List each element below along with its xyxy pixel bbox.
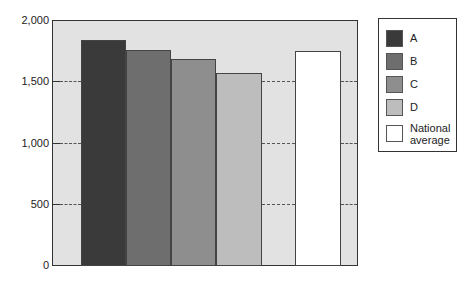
- gridline-1500: [262, 81, 295, 82]
- gridline-1500: [60, 81, 81, 82]
- legend-item-a: A: [386, 30, 456, 47]
- y-tick-1500: [52, 81, 60, 82]
- legend: A B C D National average: [378, 18, 457, 152]
- y-tick-label-0: 0: [43, 259, 49, 271]
- bar-d: [216, 73, 262, 266]
- legend-swatch-c: [386, 76, 403, 93]
- y-tick-label-1000: 1,000: [21, 137, 49, 149]
- gridline-1000: [341, 143, 357, 144]
- bar-a: [81, 40, 126, 266]
- bar-c: [171, 59, 216, 266]
- legend-label-a: A: [410, 32, 417, 44]
- bar-national-average: [295, 51, 341, 266]
- gridline-500: [60, 204, 81, 205]
- y-tick-1000: [52, 143, 60, 144]
- legend-label-line1: National: [410, 122, 450, 134]
- gridline-500: [262, 204, 295, 205]
- legend-item-b: B: [386, 53, 456, 70]
- gridline-500: [341, 204, 357, 205]
- legend-swatch-b: [386, 53, 403, 70]
- legend-item-c: C: [386, 76, 456, 93]
- legend-item-national-average: National average: [386, 123, 456, 149]
- y-tick-label-500: 500: [31, 198, 49, 210]
- legend-label-d: D: [410, 101, 418, 113]
- y-tick-500: [52, 204, 60, 205]
- legend-swatch-a: [386, 30, 403, 47]
- legend-item-d: D: [386, 99, 456, 116]
- legend-label-c: C: [410, 78, 418, 90]
- legend-label-b: B: [410, 55, 417, 67]
- gridline-1000: [60, 143, 81, 144]
- gridline-1500: [341, 81, 357, 82]
- legend-swatch-d: [386, 99, 403, 116]
- legend-swatch-national-average: [386, 125, 403, 142]
- bar-b: [126, 50, 171, 266]
- y-tick-label-1500: 1,500: [21, 75, 49, 87]
- y-tick-label-2000: 2,000: [21, 14, 49, 26]
- legend-label-national-average: National average: [410, 122, 450, 146]
- legend-label-line2: average: [410, 134, 450, 146]
- gridline-1000: [262, 143, 295, 144]
